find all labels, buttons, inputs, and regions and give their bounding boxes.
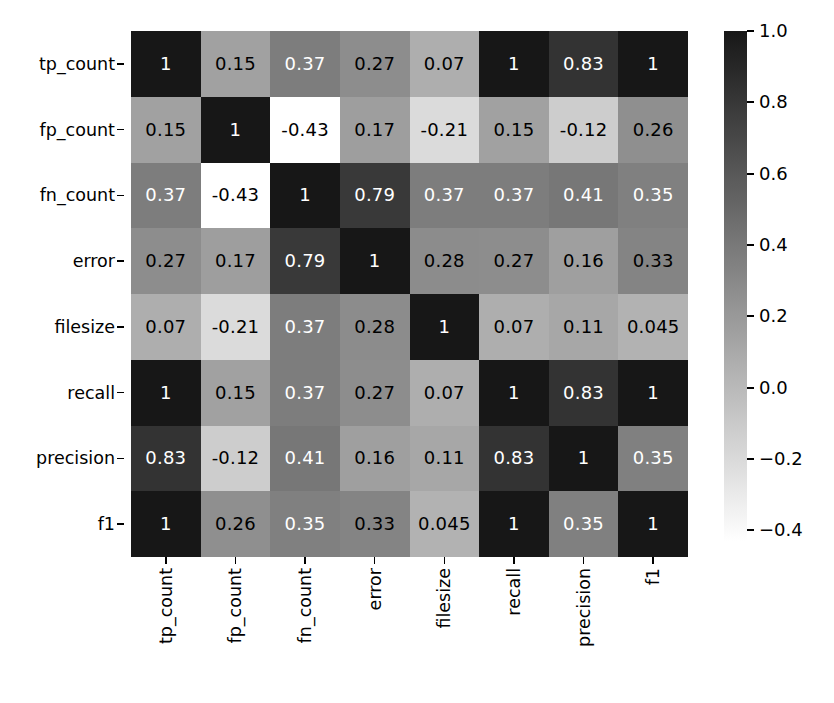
heatmap-cell: 1 bbox=[479, 31, 549, 97]
x-tick-filesize: filesize bbox=[410, 557, 480, 703]
heatmap-cell: 0.16 bbox=[549, 228, 619, 294]
heatmap-cell-value: 0.07 bbox=[424, 384, 465, 402]
heatmap-cell: 0.15 bbox=[201, 31, 271, 97]
heatmap-cell: 0.16 bbox=[340, 426, 410, 492]
heatmap-cell-value: 0.35 bbox=[633, 186, 674, 204]
x-tick-label: fn_count bbox=[295, 568, 315, 643]
heatmap-plot-area: 10.150.370.270.0710.8310.151-0.430.17-0.… bbox=[131, 31, 688, 557]
x-tick-label: precision bbox=[574, 568, 594, 647]
heatmap-cell: 0.07 bbox=[410, 31, 480, 97]
x-tick-recall: recall bbox=[479, 557, 549, 703]
y-tick-tp_count: tp_count bbox=[0, 31, 124, 97]
heatmap-cell-value: -0.21 bbox=[212, 318, 260, 336]
heatmap-cell-value: 0.26 bbox=[633, 121, 674, 139]
y-tick-label: recall bbox=[0, 360, 124, 426]
heatmap-cell-value: 0.79 bbox=[285, 252, 326, 270]
heatmap-cell: 0.37 bbox=[270, 294, 340, 360]
heatmap-cell: 1 bbox=[618, 491, 688, 557]
heatmap-cell: 0.35 bbox=[270, 491, 340, 557]
colorbar-tick-mark bbox=[747, 387, 754, 389]
x-tick-mark bbox=[235, 557, 237, 564]
heatmap-cell-value: 0.37 bbox=[493, 186, 534, 204]
heatmap-cell-value: 0.11 bbox=[563, 318, 604, 336]
y-tick-label: filesize bbox=[0, 294, 124, 360]
x-tick-label: filesize bbox=[434, 568, 454, 629]
heatmap-cell-value: -0.12 bbox=[560, 121, 608, 139]
x-tick-mark bbox=[444, 557, 446, 564]
heatmap-cell: 0.11 bbox=[549, 294, 619, 360]
heatmap-cell: 0.83 bbox=[131, 426, 201, 492]
heatmap-cell: 0.37 bbox=[410, 163, 480, 229]
heatmap-cell: 0.35 bbox=[618, 163, 688, 229]
y-tick-fn_count: fn_count bbox=[0, 163, 124, 229]
heatmap-cell-value: 0.17 bbox=[354, 121, 395, 139]
heatmap-cell: 0.15 bbox=[479, 97, 549, 163]
heatmap-cell-value: 0.26 bbox=[215, 515, 256, 533]
heatmap-cell: 0.07 bbox=[479, 294, 549, 360]
heatmap-cell-value: 0.15 bbox=[215, 384, 256, 402]
heatmap-cell-value: 1 bbox=[160, 515, 172, 533]
heatmap-cell-value: 0.11 bbox=[424, 449, 465, 467]
heatmap-cell-value: 0.37 bbox=[285, 55, 326, 73]
heatmap-cell-value: 1 bbox=[508, 384, 520, 402]
heatmap-cell: 1 bbox=[618, 31, 688, 97]
y-tick-mark bbox=[117, 458, 124, 460]
x-tick-mark bbox=[304, 557, 306, 564]
heatmap-cell: 0.27 bbox=[131, 228, 201, 294]
heatmap-cell-value: 0.83 bbox=[563, 384, 604, 402]
heatmap-cell-value: 0.07 bbox=[424, 55, 465, 73]
heatmap-cell: 0.83 bbox=[549, 360, 619, 426]
heatmap-cell-value: 0.37 bbox=[285, 318, 326, 336]
heatmap-cell: 0.33 bbox=[618, 228, 688, 294]
x-tick-label: fp_count bbox=[225, 568, 245, 643]
x-tick-fp_count: fp_count bbox=[201, 557, 271, 703]
colorbar-tick-mark bbox=[747, 101, 754, 103]
heatmap-cell: 0.41 bbox=[549, 163, 619, 229]
heatmap-cell-value: 0.15 bbox=[145, 121, 186, 139]
y-tick-label: f1 bbox=[0, 491, 124, 557]
heatmap-cell: 0.41 bbox=[270, 426, 340, 492]
heatmap-cell-value: 0.41 bbox=[563, 186, 604, 204]
heatmap-cell-value: 0.045 bbox=[627, 318, 680, 336]
colorbar-tick-label: −0.4 bbox=[759, 520, 803, 540]
heatmap-cell-value: 1 bbox=[299, 186, 311, 204]
heatmap-cell: 0.28 bbox=[340, 294, 410, 360]
heatmap-cell: 1 bbox=[549, 426, 619, 492]
correlation-heatmap-figure: tp_countfp_countfn_counterrorfilesizerec… bbox=[0, 0, 834, 703]
heatmap-cell: 0.35 bbox=[549, 491, 619, 557]
heatmap-cell: 0.045 bbox=[410, 491, 480, 557]
heatmap-cell: 0.15 bbox=[201, 360, 271, 426]
y-tick-mark bbox=[117, 63, 124, 65]
heatmap-cell: 1 bbox=[479, 360, 549, 426]
heatmap-cell-value: 1 bbox=[160, 55, 172, 73]
colorbar-tick-label: 0.4 bbox=[759, 235, 788, 255]
heatmap-cell: 0.37 bbox=[479, 163, 549, 229]
colorbar-tick-mark bbox=[747, 315, 754, 317]
heatmap-cell: 0.07 bbox=[410, 360, 480, 426]
heatmap-cell: -0.21 bbox=[201, 294, 271, 360]
heatmap-cell: 0.28 bbox=[410, 228, 480, 294]
x-tick-label: error bbox=[365, 568, 385, 610]
heatmap-cell: 0.045 bbox=[618, 294, 688, 360]
heatmap-cell-value: 1 bbox=[647, 384, 659, 402]
x-tick-mark bbox=[165, 557, 167, 564]
colorbar-tick-label: 0.6 bbox=[759, 164, 788, 184]
heatmap-cell: 0.79 bbox=[270, 228, 340, 294]
x-tick-precision: precision bbox=[549, 557, 619, 703]
heatmap-cell-value: 0.27 bbox=[493, 252, 534, 270]
x-tick-f1: f1 bbox=[618, 557, 688, 703]
heatmap-cell-value: 0.27 bbox=[354, 55, 395, 73]
heatmap-cell-value: 0.83 bbox=[145, 449, 186, 467]
heatmap-cell-value: -0.43 bbox=[281, 121, 329, 139]
heatmap-cell: 0.26 bbox=[201, 491, 271, 557]
colorbar-tick-label: 0.8 bbox=[759, 92, 788, 112]
colorbar-tick-mark bbox=[747, 458, 754, 460]
heatmap-cell-value: 0.33 bbox=[354, 515, 395, 533]
heatmap-cell-value: 1 bbox=[438, 318, 450, 336]
x-axis-ticklabels: tp_countfp_countfn_counterrorfilesizerec… bbox=[131, 557, 688, 703]
colorbar-gradient bbox=[724, 31, 747, 541]
heatmap-cell: 0.83 bbox=[549, 31, 619, 97]
x-tick-mark bbox=[652, 557, 654, 564]
colorbar-tick-mark bbox=[747, 244, 754, 246]
heatmap-cell-value: 0.15 bbox=[493, 121, 534, 139]
